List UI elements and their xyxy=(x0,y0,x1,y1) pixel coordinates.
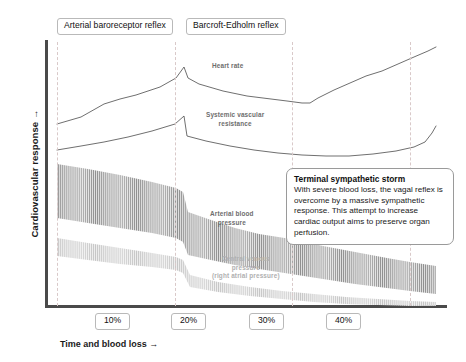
y-axis-label: Cardiovascular response → xyxy=(29,74,40,274)
phase-box-label: Arterial baroreceptor reflex xyxy=(64,20,166,30)
callout-body: With severe blood loss, the vagal reflex… xyxy=(294,185,446,238)
curve-label-line: resistance xyxy=(206,120,264,129)
chart-root: Cardiovascular response → Time and blood… xyxy=(0,0,466,362)
curve-label-arterial-blood-pressure: Arterial blood pressure xyxy=(210,210,254,227)
x-tick-box-10[interactable]: 10% xyxy=(95,313,130,330)
curve-label-central-venous-pressure: Central venous pressure (right atrial pr… xyxy=(212,255,280,281)
curve-label-line: Systemic vascular xyxy=(206,111,264,120)
curve-label-line: pressure xyxy=(212,264,280,273)
curve-label-line: pressure xyxy=(210,219,254,228)
x-tick-box-20[interactable]: 20% xyxy=(171,313,206,330)
curve-label-heart-rate: Heart rate xyxy=(212,62,243,71)
x-axis-label: Time and blood loss → xyxy=(60,339,158,349)
phase-box-arterial-baroreceptor-reflex[interactable]: Arterial baroreceptor reflex xyxy=(57,18,173,35)
x-tick-box-40[interactable]: 40% xyxy=(326,313,361,330)
gridline-10pct xyxy=(57,42,58,306)
phase-box-barcroft-edholm-reflex[interactable]: Barcroft-Edholm reflex xyxy=(186,18,286,35)
callout-title: Terminal sympathetic storm xyxy=(294,174,446,184)
x-tick-box-30[interactable]: 30% xyxy=(249,313,284,330)
curve-label-line: (right atrial pressure) xyxy=(212,272,280,281)
x-tick-label: 20% xyxy=(180,315,197,325)
curve-label-line: Arterial blood xyxy=(210,210,254,219)
x-tick-label: 30% xyxy=(258,315,275,325)
curve-label-line: Heart rate xyxy=(212,62,243,71)
curve-label-systemic-vascular-resistance: Systemic vascular resistance xyxy=(206,111,264,128)
gridline-20pct xyxy=(175,42,176,306)
callout-terminal-sympathetic-storm[interactable]: Terminal sympathetic storm With severe b… xyxy=(286,168,454,245)
curve-label-line: Central venous xyxy=(212,255,280,264)
x-tick-label: 40% xyxy=(335,315,352,325)
phase-box-label: Barcroft-Edholm reflex xyxy=(193,20,279,30)
x-tick-label: 10% xyxy=(104,315,121,325)
